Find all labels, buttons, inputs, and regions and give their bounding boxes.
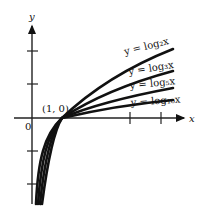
point-label: (1, 0)	[42, 103, 69, 114]
log-functions-diagram: y x 0 (1, 0) y = log₂x y = log₃x y = log…	[0, 0, 204, 208]
x-axis-label: x	[189, 113, 195, 124]
curve-log10	[42, 100, 173, 204]
y-axis-label: y	[28, 11, 35, 22]
curve-label-log3: y = log₃x	[127, 59, 175, 77]
origin-label: 0	[25, 121, 31, 132]
curve-label-log10: y = log₁₀x	[129, 94, 181, 109]
